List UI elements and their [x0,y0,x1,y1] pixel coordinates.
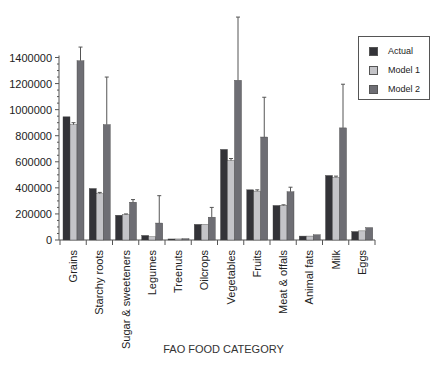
bar-model-1 [228,160,235,240]
category-label: Sugar & sweeteners [120,250,132,350]
bar-actual [273,205,280,240]
bar-actual [142,235,149,240]
bar-model-2 [182,239,189,240]
y-tick-label: 200000 [15,208,52,220]
bar-model-1 [359,231,366,240]
bar-model-2 [156,223,163,240]
category-label: Eggs [356,250,368,276]
category-label: Oilcrops [198,250,210,291]
bar-model-1 [96,194,103,240]
bar-model-1 [201,224,208,240]
y-tick-label: 800000 [15,130,52,142]
y-tick-label: 400000 [15,182,52,194]
bar-model-2 [313,235,320,240]
category-label: Legumes [146,250,158,296]
y-tick-label: 1200000 [9,78,52,90]
bar-model-1 [254,191,261,240]
bar-actual [63,117,70,240]
bar-actual [326,175,333,240]
y-tick-label: 1400000 [9,52,52,64]
bar-model-2 [208,217,215,240]
legend-item-model-2: Model 2 [369,83,420,95]
legend-label-model-1: Model 1 [388,65,420,75]
bar-model-2 [235,80,242,240]
bar-actual [221,149,228,240]
bar-model-1 [175,239,182,240]
category-label: Treenuts [172,250,184,294]
legend-item-actual: Actual [369,45,413,57]
bar-model-2 [261,137,268,240]
category-label: Animal fats [303,250,315,305]
legend-label-actual: Actual [388,46,413,56]
category-label: Meat & offals [277,250,289,314]
chart-legend: Actual Model 1 Model 2 [358,36,430,100]
bar-model-2 [287,192,294,240]
bar-model-1 [70,125,77,240]
category-label: Vegetables [225,250,237,305]
legend-item-model-1: Model 1 [369,64,420,76]
category-label: Milk [330,250,342,270]
bar-actual [168,239,175,240]
legend-swatch-model-1 [369,66,378,75]
bar-actual [116,215,123,240]
bar-actual [194,224,201,240]
category-label: Starchy roots [93,250,105,315]
bar-model-1 [306,236,313,240]
bar-model-1 [149,237,156,240]
legend-label-model-2: Model 2 [388,84,420,94]
y-tick-label: 0 [46,234,52,246]
bar-model-1 [333,177,340,240]
bar-actual [89,189,96,240]
category-label: Fruits [251,250,263,278]
bar-model-2 [340,128,347,240]
legend-swatch-model-2 [369,85,378,94]
bar-model-2 [366,228,373,240]
bar-model-1 [280,205,287,240]
bar-model-2 [130,202,137,240]
bar-actual [299,236,306,240]
y-tick-label: 1000000 [9,104,52,116]
bar-actual [352,232,359,240]
x-axis-title: FAO FOOD CATEGORY [0,343,447,355]
bar-model-1 [123,215,130,240]
bar-model-2 [77,61,84,240]
y-tick-label: 600000 [15,156,52,168]
category-label: Grains [67,250,79,283]
legend-swatch-actual [369,47,378,56]
bar-actual [247,190,254,240]
bar-model-2 [103,125,110,240]
